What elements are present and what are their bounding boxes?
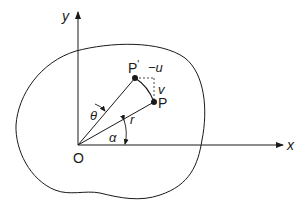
p-prime-letter: P	[128, 60, 137, 76]
body-outline	[16, 44, 205, 198]
theta-label: θ	[90, 108, 97, 123]
alpha-label: α	[109, 130, 117, 145]
rotation-arc	[135, 78, 154, 102]
prime-mark: '	[137, 59, 139, 70]
point-p-prime-label: P'	[128, 59, 139, 76]
y-axis-label: y	[61, 8, 70, 24]
point-p	[151, 99, 157, 105]
point-p-label: P	[158, 95, 167, 111]
alpha-arrow	[124, 120, 126, 144]
rotation-diagram: y x O P P' −u v r θ α	[0, 0, 306, 209]
x-axis-label: x	[286, 137, 295, 153]
radius-label: r	[130, 112, 135, 127]
u-displacement-label: −u	[148, 60, 163, 75]
origin-label: O	[73, 150, 84, 166]
